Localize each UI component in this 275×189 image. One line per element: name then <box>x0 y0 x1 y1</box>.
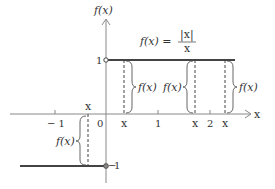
y-axis-label: f(x) <box>93 4 113 17</box>
brace-label-2: f(x) <box>162 81 182 94</box>
x-axis-label: x <box>254 108 261 121</box>
brace-icon-neg <box>76 116 86 165</box>
y-tick-minus-sign: − <box>108 160 116 171</box>
sample-x-neg: x <box>85 100 92 113</box>
open-circle-icon <box>104 58 108 62</box>
filled-circle-icon <box>104 164 109 169</box>
sample-x-3: x <box>222 117 229 130</box>
brace-label-3: f(x) <box>238 81 258 94</box>
formula-numerator: |x| <box>180 28 194 42</box>
brace-label-1: f(x) <box>137 81 157 94</box>
y-tick-label-1: 1 <box>96 55 102 66</box>
axes <box>10 19 251 183</box>
brace-icon-2 <box>183 61 193 113</box>
diagram-canvas: f(x) x − 1 0 1 2 1 1 − f(x) = |x| x f <box>0 0 275 189</box>
tick-label-0: 0 <box>97 118 103 129</box>
tick-label-1: 1 <box>155 118 161 129</box>
brace-label-neg: f(x) <box>55 135 75 148</box>
brace-icon-1 <box>126 61 136 113</box>
braces <box>76 61 237 165</box>
tick-label-neg1: − 1 <box>47 118 65 129</box>
tick-label-2: 2 <box>207 118 213 129</box>
sample-x-1: x <box>121 117 128 130</box>
dashed-lines <box>88 60 225 166</box>
formula: f(x) = |x| x <box>139 28 196 55</box>
formula-denominator: x <box>184 42 191 55</box>
sample-x-2: x <box>192 117 199 130</box>
formula-lhs: f(x) = <box>139 35 172 48</box>
brace-icon-3 <box>227 61 237 113</box>
